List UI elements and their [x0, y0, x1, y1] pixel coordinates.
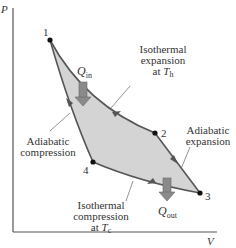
adiabatic-expansion-label: Adiabatic expansion: [180, 125, 236, 147]
label-line: at Th: [126, 66, 200, 80]
label-line: expansion: [180, 136, 236, 147]
heat-in-subscript: in: [86, 71, 92, 80]
point-label-3: 3: [205, 191, 211, 202]
state-point-2: [152, 130, 157, 135]
label-line: compression: [17, 147, 79, 158]
isothermal-expansion-label: Isothermal expansion at Th: [126, 44, 200, 80]
heat-out-subscript: out: [167, 211, 177, 220]
state-point-1: [47, 37, 52, 42]
point-label-4: 4: [83, 165, 89, 176]
heat-in-symbol: Q: [77, 64, 86, 78]
leader-line: [50, 113, 70, 131]
point-label-2: 2: [161, 128, 167, 139]
y-axis-label: P: [1, 4, 8, 15]
state-point-3: [197, 190, 202, 195]
heat-in-label: Qin: [77, 66, 92, 81]
heat-out-symbol: Q: [158, 204, 167, 218]
point-label-1: 1: [43, 27, 49, 38]
leader-line: [181, 147, 190, 169]
label-line: at Tc: [64, 222, 138, 236]
x-axis-label: V: [207, 236, 214, 247]
heat-out-label: Qout: [158, 206, 177, 221]
isothermal-compression-label: Isothermal compression at Tc: [64, 200, 138, 236]
state-point-4: [90, 159, 95, 164]
leader-line: [111, 86, 130, 108]
adiabatic-compression-label: Adiabatic compression: [17, 136, 79, 158]
leader-line: [126, 181, 133, 201]
